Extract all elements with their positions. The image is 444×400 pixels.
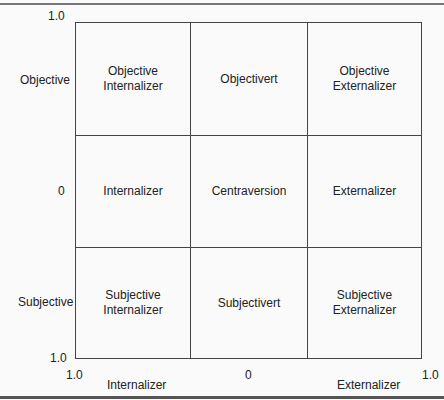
cell-subjectivert: Subjectivert	[191, 248, 308, 358]
x-center-tick: 0	[245, 368, 252, 382]
bottom-rule	[0, 396, 444, 399]
cell-internalizer: Internalizer	[76, 136, 191, 248]
cell-externalizer: Externalizer	[308, 136, 421, 248]
cell-centraversion: Centraversion	[191, 136, 308, 248]
y-label-zero: 0	[58, 184, 65, 198]
cell-subjective-externalizer: SubjectiveExternalizer	[308, 248, 421, 358]
cell-objective-externalizer: ObjectiveExternalizer	[308, 23, 421, 136]
y-bottom-tick: 1.0	[50, 351, 67, 365]
y-label-subjective: Subjective	[18, 295, 73, 309]
cell-objective-internalizer: ObjectiveInternalizer	[76, 23, 191, 136]
top-rule	[0, 3, 444, 5]
y-top-tick: 1.0	[48, 9, 65, 23]
cell-subjective-internalizer: SubjectiveInternalizer	[76, 248, 191, 358]
x-right-tick: 1.0	[422, 368, 439, 382]
quadrant-grid: ObjectiveInternalizer Objectivert Object…	[75, 22, 422, 359]
x-label-externalizer: Externalizer	[337, 378, 400, 392]
x-label-internalizer: Internalizer	[107, 378, 166, 392]
cell-objectivert: Objectivert	[191, 23, 308, 136]
x-left-tick: 1.0	[66, 368, 83, 382]
y-label-objective: Objective	[20, 73, 70, 87]
